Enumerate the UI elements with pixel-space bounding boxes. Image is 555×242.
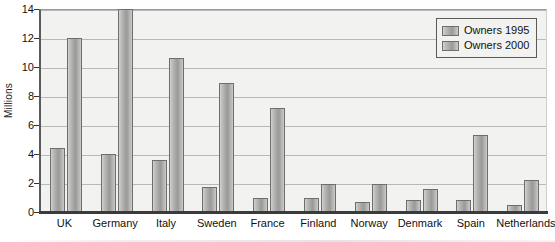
y-tick-mark bbox=[34, 38, 39, 39]
bar-group bbox=[152, 10, 185, 212]
y-tick-label: 14 bbox=[14, 4, 34, 15]
y-tick-mark bbox=[34, 212, 39, 213]
bar[interactable] bbox=[372, 184, 387, 212]
x-axis-label: Norway bbox=[344, 216, 395, 230]
legend-label: Owners 1995 bbox=[464, 24, 529, 37]
bar[interactable] bbox=[423, 189, 438, 212]
bar[interactable] bbox=[321, 184, 336, 212]
bar[interactable] bbox=[219, 83, 234, 212]
x-axis-label: Sweden bbox=[191, 216, 242, 230]
x-axis-label: Spain bbox=[445, 216, 496, 230]
chart-title-cropped bbox=[30, 0, 290, 1]
bar[interactable] bbox=[101, 154, 116, 212]
legend-item[interactable]: Owners 2000 bbox=[442, 38, 529, 53]
bar[interactable] bbox=[270, 108, 285, 212]
y-tick-mark bbox=[34, 67, 39, 68]
y-tick-label: 6 bbox=[14, 120, 34, 131]
x-axis-label: Germany bbox=[90, 216, 141, 230]
y-axis-tick-labels: 02468101214 bbox=[0, 0, 34, 242]
chart-legend: Owners 1995Owners 2000 bbox=[436, 18, 537, 58]
bar-chart-figure: Millions 02468101214 UKGermanyItalySwede… bbox=[0, 0, 555, 242]
y-tick-mark bbox=[34, 96, 39, 97]
y-tick-label: 4 bbox=[14, 149, 34, 160]
y-tick-mark bbox=[34, 154, 39, 155]
x-axis-label: Netherlands bbox=[496, 216, 547, 230]
x-axis-label: Italy bbox=[141, 216, 192, 230]
x-axis-label: France bbox=[242, 216, 293, 230]
bar-group bbox=[304, 10, 337, 212]
y-tick-label: 8 bbox=[14, 91, 34, 102]
bar[interactable] bbox=[152, 160, 167, 212]
bar-group bbox=[253, 10, 286, 212]
legend-item[interactable]: Owners 1995 bbox=[442, 23, 529, 38]
bar-group bbox=[406, 10, 439, 212]
bar-group bbox=[202, 10, 235, 212]
legend-swatch-icon bbox=[442, 41, 459, 51]
y-tick-label: 2 bbox=[14, 178, 34, 189]
legend-label: Owners 2000 bbox=[464, 39, 529, 52]
bar[interactable] bbox=[202, 187, 217, 212]
bar[interactable] bbox=[304, 198, 319, 213]
bar-group bbox=[355, 10, 388, 212]
bar-group bbox=[101, 10, 134, 212]
bar[interactable] bbox=[67, 38, 82, 212]
bar[interactable] bbox=[169, 58, 184, 212]
bar[interactable] bbox=[118, 9, 133, 212]
bar-group bbox=[50, 10, 83, 212]
x-axis-label: Denmark bbox=[395, 216, 446, 230]
y-tick-label: 10 bbox=[14, 62, 34, 73]
bar[interactable] bbox=[473, 135, 488, 212]
y-tick-label: 0 bbox=[14, 207, 34, 218]
x-axis-label: UK bbox=[39, 216, 90, 230]
legend-swatch-icon bbox=[442, 26, 459, 36]
y-tick-mark bbox=[34, 125, 39, 126]
bar[interactable] bbox=[524, 180, 539, 212]
x-axis-category-labels: UKGermanyItalySwedenFranceFinlandNorwayD… bbox=[39, 216, 548, 240]
y-tick-mark bbox=[34, 9, 39, 10]
x-axis-label: Finland bbox=[293, 216, 344, 230]
x-axis-line bbox=[39, 211, 548, 214]
y-tick-mark bbox=[34, 183, 39, 184]
bar[interactable] bbox=[253, 198, 268, 213]
y-tick-label: 12 bbox=[14, 33, 34, 44]
bar[interactable] bbox=[50, 148, 65, 212]
